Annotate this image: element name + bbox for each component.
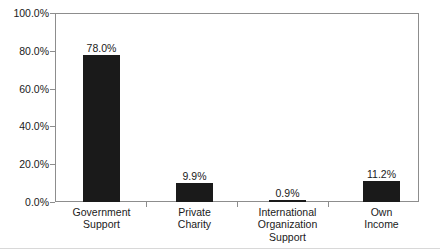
y-tick-label: 100.0%: [0, 8, 49, 19]
category-label-international-organization-support: International Organization Support: [242, 206, 333, 243]
category-label-line: Support: [242, 231, 333, 243]
y-tick-mark: [50, 164, 55, 165]
category-label-own-income: Own Income: [341, 206, 422, 231]
data-label-own-income: 11.2%: [351, 169, 412, 180]
category-label-line: Organization: [242, 218, 333, 230]
y-tick-label: 20.0%: [0, 159, 49, 170]
bar-own-income: [363, 181, 400, 202]
y-tick-mark: [50, 89, 55, 90]
y-tick-label: 40.0%: [0, 121, 49, 132]
bar-private-charity: [176, 183, 213, 202]
category-label-government-support: Government Support: [61, 206, 142, 231]
category-label-line: Government: [61, 206, 142, 218]
data-label-international-organization-support: 0.9%: [257, 188, 318, 199]
category-label-line: Private: [154, 206, 235, 218]
category-label-private-charity: Private Charity: [154, 206, 235, 231]
y-tick-label: 0.0%: [0, 197, 49, 208]
y-tick-mark: [50, 126, 55, 127]
bar-international-organization-support: [269, 200, 306, 202]
category-label-line: Support: [61, 218, 142, 230]
bar-government-support: [83, 55, 120, 202]
category-label-line: International: [242, 206, 333, 218]
y-tick-label: 60.0%: [0, 84, 49, 95]
y-tick-mark: [50, 202, 55, 203]
y-tick-label: 80.0%: [0, 46, 49, 57]
data-label-private-charity: 9.9%: [164, 171, 225, 182]
bar-chart: 100.0% 80.0% 60.0% 40.0% 20.0% 0.0% 78.0…: [0, 0, 440, 249]
data-label-government-support: 78.0%: [71, 43, 132, 54]
category-label-line: Charity: [154, 218, 235, 230]
y-tick-mark: [50, 13, 55, 14]
category-label-line: Own: [341, 206, 422, 218]
y-tick-mark: [50, 51, 55, 52]
x-tick-mark: [237, 202, 238, 207]
x-tick-mark: [146, 202, 147, 207]
category-label-line: Income: [341, 218, 422, 230]
